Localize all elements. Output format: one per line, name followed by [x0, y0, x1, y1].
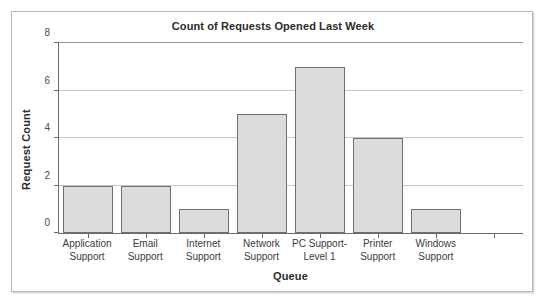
bar[interactable] — [179, 209, 229, 233]
x-axis-category-label-line: PC Support- — [292, 238, 347, 249]
bars-layer — [59, 43, 523, 233]
chart-title: Count of Requests Opened Last Week — [12, 20, 534, 32]
x-axis-category-label-line: Support — [174, 251, 232, 264]
bar-slot — [291, 43, 349, 233]
chart-figure-frame: Count of Requests Opened Last Week Reque… — [11, 11, 533, 292]
x-axis-category-label: InternetSupport — [174, 238, 232, 263]
x-axis-category-label: EmailSupport — [116, 238, 174, 263]
x-axis-category-label-line: Support — [116, 251, 174, 264]
x-axis-category-label: ApplicationSupport — [58, 238, 116, 263]
y-axis-tick-label: 8 — [44, 27, 50, 38]
x-axis-title: Queue — [58, 270, 523, 282]
x-axis-category-label-line: Printer — [363, 238, 392, 249]
y-axis-tick-label: 4 — [44, 122, 50, 133]
bar-slot — [175, 43, 233, 233]
bar[interactable] — [121, 186, 171, 234]
x-axis-category-label-line: Application — [63, 238, 112, 249]
x-axis-category-label-line: Support — [232, 251, 290, 264]
x-axis-category-label: PrinterSupport — [349, 238, 407, 263]
bar-slot — [233, 43, 291, 233]
x-axis-category-label-line: Windows — [416, 238, 457, 249]
x-axis-category-label: PC Support-Level 1 — [291, 238, 349, 263]
y-axis-tick-label: 0 — [44, 217, 50, 228]
x-axis-category-label-line: Support — [58, 251, 116, 264]
x-axis-category-label: NetworkSupport — [232, 238, 290, 263]
bar-slot — [59, 43, 117, 233]
x-axis-category-labels: ApplicationSupportEmailSupportInternetSu… — [58, 238, 523, 274]
x-axis-category-label-line: Support — [349, 251, 407, 264]
bar[interactable] — [411, 209, 461, 233]
y-axis-tick-label: 2 — [44, 169, 50, 180]
bar[interactable] — [237, 114, 287, 233]
bar[interactable] — [63, 186, 113, 234]
x-axis-category-label-line: Email — [133, 238, 158, 249]
y-axis-title: Request Count — [20, 54, 34, 245]
x-axis-category-label-line: Internet — [186, 238, 220, 249]
bar-slot — [407, 43, 465, 233]
x-axis-category-label: WindowsSupport — [407, 238, 465, 263]
plot-area: 02468 — [58, 43, 523, 234]
bar[interactable] — [353, 138, 403, 233]
x-axis-category-label-line: Network — [243, 238, 280, 249]
bar-slot — [349, 43, 407, 233]
x-axis-category-label-line: Support — [407, 251, 465, 264]
bar-slot — [117, 43, 175, 233]
bar[interactable] — [295, 67, 345, 233]
y-axis-tick-label: 6 — [44, 74, 50, 85]
x-axis-category-label-line: Level 1 — [291, 251, 349, 264]
